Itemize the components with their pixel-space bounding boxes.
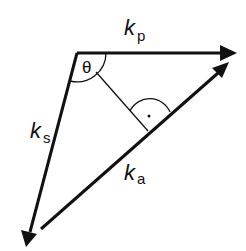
svg-text:s: s [43,129,51,146]
arrowhead-icon [21,230,37,247]
svg-text:k: k [30,118,42,143]
vector-diagram: θ k p k s k a [0,0,246,251]
arrowhead-icon [220,45,237,61]
label-ks: k s [30,118,51,146]
right-angle-arc [130,99,170,112]
svg-text:k: k [124,160,136,185]
label-kp: k p [124,15,145,44]
vector-ks [21,53,77,247]
vector-kp [77,45,237,61]
angle-label: θ [82,58,91,77]
label-ka: k a [124,160,146,187]
svg-text:a: a [137,170,146,187]
svg-text:p: p [137,27,145,44]
right-angle-dot [148,115,151,118]
svg-text:k: k [124,15,136,40]
